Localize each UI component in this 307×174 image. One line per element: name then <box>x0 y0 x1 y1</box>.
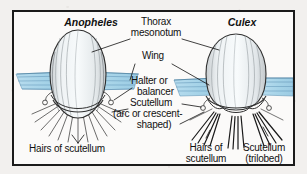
culex-illustration <box>174 33 293 149</box>
label-scutellum-left: Scutellum <box>130 97 172 108</box>
label-wing: Wing <box>120 50 186 61</box>
leader-halter-to-culex <box>182 104 201 107</box>
label-mesonotum: mesonotum <box>114 27 198 38</box>
diagram-border-frame: Anopheles Culex Thorax mesonotum Wing Ha… <box>12 10 295 166</box>
label-balancer: balancer <box>137 86 174 97</box>
label-culex: Culex <box>200 17 284 28</box>
mosquito-thorax-figure: Anopheles Culex Thorax mesonotum Wing Ha… <box>0 0 307 174</box>
leader-thorax-to-culex <box>182 39 219 50</box>
label-scutellum-culex: scutellum <box>177 153 235 164</box>
label-halter: Halter or <box>131 75 168 86</box>
label-arc-or-crescent: (arc or crescent- <box>113 108 182 119</box>
culex-right-wing <box>262 78 293 96</box>
anopheles-illustration <box>16 30 139 143</box>
label-hairs-of-culex: Hairs of <box>177 142 235 153</box>
label-thorax: Thorax <box>118 16 194 27</box>
culex-thorax-mesonotum <box>206 33 266 113</box>
label-shaped: shaped) <box>124 119 184 130</box>
anopheles-thorax-mesonotum <box>50 30 106 118</box>
label-trilobed: (trilobed) <box>236 153 292 164</box>
label-scutellum-right: Scutellum <box>236 142 292 153</box>
label-hairs-of-scutellum-left: Hairs of scutellum <box>29 143 105 154</box>
